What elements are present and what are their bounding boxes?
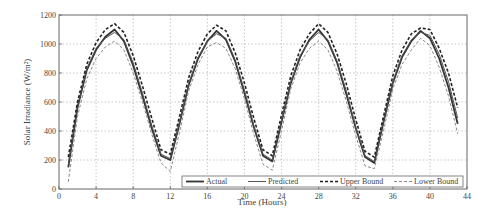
x-axis-label: Time (Hours) <box>238 197 287 207</box>
series-predicted <box>68 32 457 164</box>
x-tick-label: 40 <box>426 192 434 201</box>
y-tick-label: 800 <box>44 69 56 78</box>
y-tick-label: 600 <box>44 98 56 107</box>
y-tick-label: 200 <box>44 156 56 165</box>
series-lines <box>68 24 457 182</box>
x-tick-label: 12 <box>166 192 174 201</box>
x-tick-label: 16 <box>203 192 211 201</box>
y-tick-label: 1000 <box>40 40 56 49</box>
x-tick-label: 32 <box>352 192 360 201</box>
x-tick-label: 44 <box>463 192 471 201</box>
legend-label: Lower Bound <box>414 177 458 186</box>
grid-lines <box>59 15 467 189</box>
x-tick-label: 4 <box>94 192 98 201</box>
x-tick-label: 28 <box>315 192 323 201</box>
solar-irradiance-chart: 0481216202428323640440200400600800100012… <box>0 0 491 215</box>
y-tick-label: 1200 <box>40 11 56 20</box>
x-tick-label: 0 <box>57 192 61 201</box>
y-tick-label: 0 <box>52 185 56 194</box>
x-tick-label: 36 <box>389 192 397 201</box>
legend-label: Predicted <box>268 177 298 186</box>
series-actual <box>68 30 457 168</box>
legend-label: Upper Bound <box>340 177 383 186</box>
x-tick-label: 8 <box>131 192 135 201</box>
y-axis-label: Solar Irradiance (W/m²) <box>22 59 32 146</box>
legend: ActualPredictedUpper BoundLower Bound <box>182 176 463 187</box>
legend-label: Actual <box>206 177 228 186</box>
y-tick-label: 400 <box>44 127 56 136</box>
